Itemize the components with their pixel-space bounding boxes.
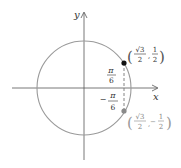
svg-text:√3: √3 [136, 113, 145, 121]
svg-text:,: , [148, 52, 150, 60]
svg-text:π: π [107, 66, 114, 75]
angle-label-pi-over-6: π 6 [107, 66, 116, 85]
svg-text:6: 6 [111, 103, 116, 112]
svg-text:√3: √3 [136, 46, 145, 54]
svg-text:1: 1 [153, 46, 157, 54]
svg-text:1: 1 [159, 113, 163, 121]
angle-label-neg-pi-over-6: − π 6 [100, 91, 118, 112]
svg-text:2: 2 [138, 56, 142, 64]
svg-text:π: π [109, 91, 116, 100]
coord-label-top: ( √3 2 , 1 2 ) [127, 46, 165, 66]
svg-text:2: 2 [138, 123, 142, 131]
x-axis-label: x [153, 91, 159, 102]
svg-text:): ) [159, 48, 165, 66]
svg-text:−: − [100, 95, 107, 104]
point-pi-over-6 [121, 60, 126, 65]
unit-circle-diagram: y x π 6 − π 6 ( √3 2 , 1 2 ) ( √3 2 , − [0, 0, 181, 168]
svg-text:): ) [166, 114, 172, 132]
y-axis-label: y [73, 9, 80, 20]
svg-text:(: ( [127, 48, 133, 66]
svg-text:2: 2 [153, 56, 157, 64]
svg-text:−: − [150, 118, 156, 126]
coord-label-bottom: ( √3 2 , − 1 2 ) [127, 113, 172, 132]
svg-text:(: ( [127, 114, 133, 132]
svg-text:6: 6 [109, 76, 114, 85]
point-neg-pi-over-6 [121, 108, 126, 113]
svg-text:2: 2 [159, 123, 163, 131]
